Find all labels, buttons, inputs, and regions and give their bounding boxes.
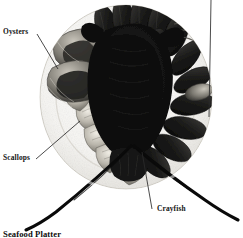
annotation-label-oysters: Oysters [3,28,28,35]
figure-caption: Seafood Platter [3,230,61,238]
leader-line-scallops [36,121,80,159]
annotation-leaders [0,0,243,238]
leader-line-crayfish [142,152,152,209]
annotation-label-crayfish: Crayfish [157,205,186,212]
leader-line-oysters [37,34,58,69]
annotated-photo-figure: Oysters Scallops Crayfish Seafood Platte… [0,0,243,238]
annotation-label-scallops: Scallops [3,154,30,161]
leader-line-top-right [209,0,211,117]
